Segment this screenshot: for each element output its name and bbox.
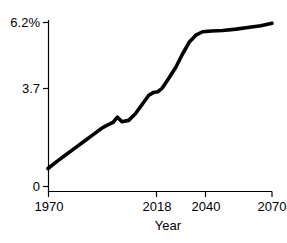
data-series-line <box>48 23 272 168</box>
chart-container: 6.2% 3.7 0 1970 2018 2040 2070 Year <box>0 0 287 243</box>
x-tick-label-2040: 2040 <box>180 200 232 213</box>
y-tick-label-mid: 3.7 <box>0 82 40 95</box>
x-axis-title: Year <box>128 219 208 232</box>
x-tick-label-1970: 1970 <box>23 200 75 213</box>
x-tick-label-2070: 2070 <box>246 200 287 213</box>
axes-group <box>43 20 272 197</box>
x-tick-label-2018: 2018 <box>131 200 183 213</box>
y-tick-label-zero: 0 <box>0 180 40 193</box>
y-tick-label-top: 6.2% <box>0 16 40 29</box>
